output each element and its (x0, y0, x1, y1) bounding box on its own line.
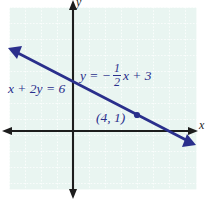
graph-canvas (0, 0, 212, 203)
coordinate-plane-figure: x + 2y = 6 y = − 1 2 x + 3 (4, 1) x y (0, 0, 212, 203)
equation-standard-form-label: x + 2y = 6 (8, 82, 65, 96)
equation-suffix: x + 3 (123, 69, 152, 83)
x-axis-label: x (199, 118, 204, 133)
fraction-one-half: 1 2 (113, 62, 121, 89)
y-axis-label: y (76, 0, 81, 10)
point-coordinate-label: (4, 1) (96, 111, 125, 125)
equation-slope-intercept-label: y = − 1 2 x + 3 (80, 62, 152, 89)
fraction-numerator: 1 (113, 62, 121, 74)
point-marker-4-1 (134, 112, 140, 118)
fraction-denominator: 2 (113, 76, 121, 88)
equation-prefix: y = − (80, 69, 111, 83)
